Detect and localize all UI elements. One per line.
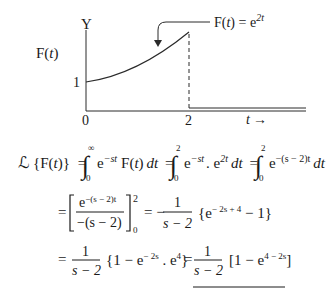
svg-text:1: 1 [204, 244, 211, 259]
graph [86, 22, 306, 111]
function-axis-label: F(t) [36, 45, 59, 62]
t-axis-label: t→ [246, 112, 267, 127]
svg-text:e−st. e2tdt =: e−st. e2tdt = [184, 153, 258, 171]
svg-text:e−(s − 2)t: e−(s − 2)t [79, 194, 117, 210]
svg-text:s − 2: s − 2 [163, 216, 192, 231]
svg-text:e−(s − 2)tdt: e−(s − 2)tdt [269, 153, 326, 171]
svg-text:−(s − 2): −(s − 2) [77, 215, 122, 231]
svg-text:ℒ{F(t)} =: ℒ{F(t)} = [18, 154, 86, 172]
math-figure: Y F(t) 1 0 2 t→ F(t) = e2t ℒ{F(t)} = ∫ ∞… [0, 0, 336, 301]
tick-label-one: 1 [73, 75, 80, 90]
right-bracket [126, 195, 130, 231]
svg-text:e−stF(t)dt =: e−stF(t)dt = [97, 153, 174, 172]
equation-line-3: = 1 s − 2 {1 − e− 2s . e4} = 1 s − 2 [1 … [58, 244, 291, 287]
callout-label: F(t) = e2t [214, 12, 264, 31]
svg-text:= −: = − [144, 204, 165, 220]
svg-text:0: 0 [174, 173, 179, 183]
exponential-curve [86, 32, 189, 82]
svg-text:0: 0 [86, 173, 91, 183]
equation-line-2: = e−(s − 2)t −(s − 2) 2 0 = − 1 s − 2 {e… [58, 193, 272, 235]
svg-text:s − 2: s − 2 [194, 263, 223, 278]
svg-text:1: 1 [82, 244, 89, 259]
left-bracket [70, 195, 74, 231]
svg-text:{e− 2s + 4 − 1}: {e− 2s + 4 − 1} [198, 204, 272, 221]
svg-text:s − 2: s − 2 [72, 263, 101, 278]
y-axis-label: Y [81, 16, 92, 32]
svg-text:1: 1 [174, 195, 181, 210]
equation-line-1: ℒ{F(t)} = ∫ ∞ 0 e−stF(t)dt = ∫ 2 0 e−st.… [18, 143, 326, 183]
svg-text:0: 0 [259, 173, 264, 183]
svg-text:=: = [58, 251, 66, 267]
tick-label-two: 2 [185, 113, 192, 128]
svg-text:0: 0 [133, 225, 138, 235]
svg-text:2: 2 [261, 143, 266, 153]
svg-text:=: = [184, 251, 192, 267]
svg-text:2: 2 [176, 143, 181, 153]
svg-text:=: = [58, 204, 66, 220]
svg-text:∞: ∞ [88, 143, 94, 153]
callout-arrowhead-icon [154, 40, 162, 47]
callout-arrow-line [158, 22, 210, 43]
svg-text:2: 2 [133, 193, 138, 204]
svg-text:{1 − e− 2s . e4}: {1 − e− 2s . e4} [106, 251, 188, 268]
tick-label-zero: 0 [82, 113, 89, 128]
svg-text:[1 − e4 − 2s]: [1 − e4 − 2s] [229, 251, 291, 268]
